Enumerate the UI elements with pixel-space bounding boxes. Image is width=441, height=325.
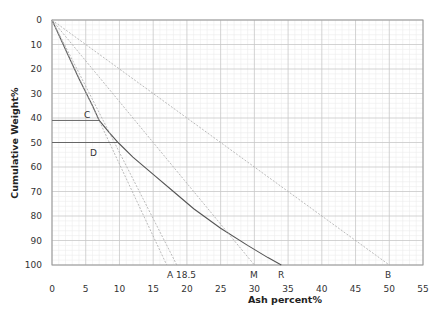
x-axis-ticks: 0510152025303540455055 xyxy=(49,284,429,294)
y-tick-label: 50 xyxy=(31,138,43,148)
x-tick-label: 0 xyxy=(49,284,55,294)
y-tick-label: 40 xyxy=(31,113,43,123)
marker-m: M xyxy=(250,270,258,280)
x-tick-label: 10 xyxy=(114,284,126,294)
x-axis-label: Ash percent% xyxy=(248,294,322,305)
marker-r: R xyxy=(278,270,284,280)
x-tick-label: 5 xyxy=(83,284,89,294)
y-tick-label: 20 xyxy=(31,64,43,74)
x-tick-label: 50 xyxy=(384,284,396,294)
x-tick-label: 20 xyxy=(181,284,193,294)
y-axis-label: Cumulative Weight% xyxy=(9,87,20,199)
x-tick-label: 35 xyxy=(282,284,293,294)
marker-b: B xyxy=(385,270,391,280)
y-axis-ticks: 0102030405060708090100 xyxy=(25,15,42,270)
y-tick-label: 70 xyxy=(31,187,43,197)
x-tick-label: 30 xyxy=(249,284,261,294)
x-tick-label: 15 xyxy=(147,284,158,294)
marker-d: D xyxy=(90,148,97,158)
marker-c: C xyxy=(84,110,90,120)
x-tick-label: 25 xyxy=(215,284,226,294)
y-tick-label: 0 xyxy=(36,15,42,25)
y-tick-label: 30 xyxy=(31,89,43,99)
y-tick-label: 100 xyxy=(25,260,42,270)
y-tick-label: 60 xyxy=(31,162,43,172)
marker-a: A 18.5 xyxy=(167,270,196,280)
x-tick-label: 55 xyxy=(417,284,428,294)
x-tick-label: 40 xyxy=(316,284,328,294)
x-tick-label: 45 xyxy=(350,284,361,294)
y-tick-label: 80 xyxy=(31,211,43,221)
y-tick-label: 90 xyxy=(31,236,43,246)
y-tick-label: 10 xyxy=(31,40,43,50)
ash-cumulative-chart: 0510152025303540455055 01020304050607080… xyxy=(0,0,441,325)
